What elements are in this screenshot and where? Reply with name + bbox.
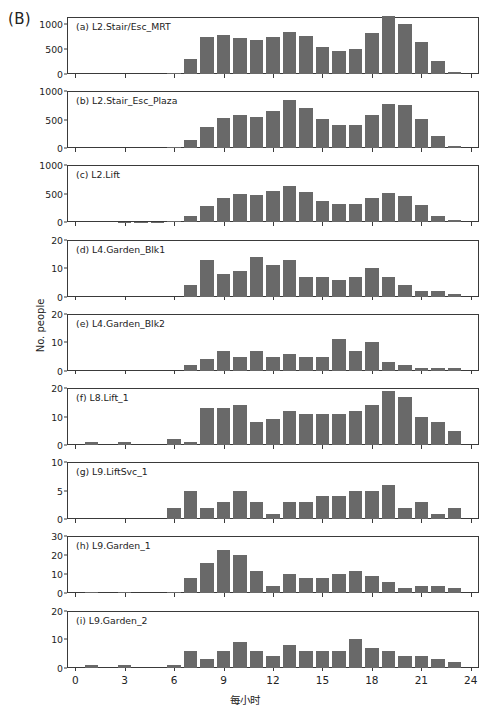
bar <box>415 586 429 594</box>
y-tick-label: 0 <box>23 365 63 376</box>
x-tick-mark <box>471 519 472 523</box>
bar <box>398 285 412 296</box>
figure-panel-B: (B) No. people 每小时 (a) L2.Stair/Esc_MRT0… <box>0 0 489 715</box>
x-tick-mark <box>273 74 274 78</box>
bar <box>200 127 214 148</box>
bar <box>184 285 198 296</box>
bar <box>431 291 445 297</box>
y-tick-label: 0 <box>23 662 63 673</box>
bar <box>184 365 198 371</box>
x-tick-mark <box>75 519 76 523</box>
subplot-title: (a) L2.Stair/Esc_MRT <box>76 21 171 32</box>
x-tick-mark <box>421 222 422 226</box>
x-tick-mark <box>125 74 126 78</box>
bar <box>118 222 132 223</box>
y-tick-label: 1000 <box>23 86 63 97</box>
subplot-d: (d) L4.Garden_Blk101020 <box>67 240 479 297</box>
bar <box>233 555 247 593</box>
bar <box>382 582 396 593</box>
bar <box>118 592 132 594</box>
x-tick-mark <box>322 74 323 78</box>
x-tick-mark <box>174 74 175 78</box>
bar <box>151 222 165 223</box>
x-tick-mark <box>125 297 126 301</box>
bar <box>382 104 396 148</box>
y-tick-label: 20 <box>23 550 63 561</box>
x-tick-mark <box>125 371 126 375</box>
x-tick-mark <box>322 519 323 523</box>
bar <box>398 196 412 223</box>
bar <box>415 368 429 371</box>
subplot-title: (i) L9.Garden_2 <box>76 615 147 626</box>
bar <box>266 514 280 520</box>
subplot-title: (g) L9.LiftSvc_1 <box>76 466 148 477</box>
bar <box>316 578 330 593</box>
x-tick-mark <box>372 668 373 672</box>
x-tick-mark <box>322 148 323 152</box>
y-tick-label: 1000 <box>23 19 63 30</box>
bar <box>299 108 313 148</box>
subplot-f: (f) L8.Lift_101020 <box>67 388 479 445</box>
x-tick-mark <box>174 668 175 672</box>
bar <box>184 491 198 520</box>
x-tick-mark <box>273 222 274 226</box>
bar <box>431 136 445 148</box>
bar <box>382 362 396 371</box>
y-tick-label: 10 <box>23 634 63 645</box>
bar <box>349 411 363 445</box>
x-tick-mark <box>372 222 373 226</box>
bar <box>283 32 297 74</box>
y-tick-label: 5 <box>23 485 63 496</box>
bar <box>250 422 264 445</box>
y-tick-label: 30 <box>23 531 63 542</box>
x-tick-label: 21 <box>415 674 428 686</box>
x-tick-mark <box>421 593 422 597</box>
x-axis-title: 每小时 <box>0 692 489 707</box>
bar <box>316 277 330 297</box>
subplot-title: (f) L8.Lift_1 <box>76 392 129 403</box>
bar <box>233 38 247 74</box>
bar <box>283 645 297 668</box>
bar <box>134 222 148 223</box>
bar <box>233 405 247 445</box>
bar <box>217 118 231 148</box>
bar <box>217 550 231 594</box>
bar <box>184 140 198 148</box>
x-tick-mark <box>471 222 472 226</box>
bar <box>398 588 412 594</box>
bar <box>365 405 379 445</box>
y-tick-label: 10 <box>23 337 63 348</box>
x-tick-mark <box>471 445 472 449</box>
bar <box>448 662 462 668</box>
bar <box>365 268 379 297</box>
bar <box>217 274 231 297</box>
bar <box>365 648 379 668</box>
x-tick-mark <box>372 371 373 375</box>
bar <box>431 422 445 445</box>
x-tick-mark <box>224 371 225 375</box>
bar <box>184 216 198 222</box>
bar <box>250 571 264 594</box>
y-tick-label: 500 <box>23 44 63 55</box>
x-tick-label: 0 <box>72 674 79 686</box>
bar <box>349 125 363 148</box>
y-tick-label: 0 <box>23 143 63 154</box>
bar <box>415 42 429 74</box>
bar <box>349 351 363 371</box>
x-tick-mark <box>471 74 472 78</box>
y-tick-label: 10 <box>23 263 63 274</box>
bar <box>283 354 297 371</box>
x-tick-mark <box>421 371 422 375</box>
bar <box>266 419 280 445</box>
bar <box>217 651 231 668</box>
bar <box>250 40 264 74</box>
bar <box>365 491 379 520</box>
bar <box>316 651 330 668</box>
bar <box>283 574 297 593</box>
bar <box>382 277 396 297</box>
x-tick-mark <box>174 148 175 152</box>
bar <box>283 186 297 222</box>
x-tick-mark <box>174 593 175 597</box>
bar <box>233 194 247 223</box>
bar <box>184 651 198 668</box>
